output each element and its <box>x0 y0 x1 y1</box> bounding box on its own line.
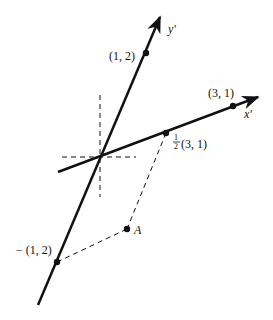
dashed-line-half-x-to-A <box>127 133 166 229</box>
fraction-numerator: 1 <box>174 133 178 142</box>
point-neg-y-basis <box>54 259 60 265</box>
x-basis-label: (3, 1) <box>208 86 234 100</box>
y-basis-label: (1, 2) <box>109 49 135 63</box>
x-prime-axis <box>58 97 258 172</box>
fraction-denominator: 2 <box>174 142 178 151</box>
point-half-x-basis <box>163 130 169 136</box>
point-A <box>124 226 130 232</box>
x-prime-label: x' <box>243 107 252 121</box>
point-A-label: A <box>133 223 142 237</box>
y-prime-label: y' <box>167 22 176 36</box>
point-x-basis <box>230 103 236 109</box>
point-y-basis <box>143 50 149 56</box>
neg-y-basis-label: − (1, 2) <box>16 243 52 257</box>
half-x-basis-label: 1 2 (3, 1) <box>173 133 207 151</box>
oblique-axes-diagram: y' x' (1, 2) (3, 1) 1 2 (3, 1) − (1, 2) … <box>0 0 273 320</box>
half-x-basis-vector: (3, 1) <box>181 137 207 151</box>
